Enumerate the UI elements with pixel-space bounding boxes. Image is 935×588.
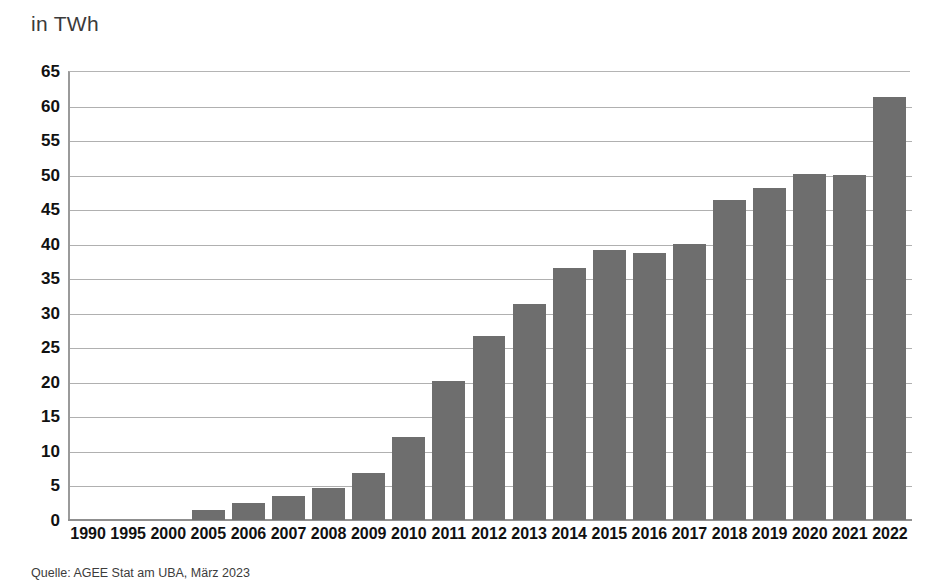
- bar-slot: [830, 71, 870, 520]
- x-axis-tick-label: 2020: [790, 526, 830, 542]
- bar-slot: [349, 71, 389, 520]
- bar[interactable]: [793, 174, 826, 520]
- x-axis-tick-label: 2015: [589, 526, 629, 542]
- y-axis-tick-label: 45: [4, 201, 60, 218]
- bar[interactable]: [833, 175, 866, 520]
- x-axis-tick-label: 2021: [830, 526, 870, 542]
- bar-slot: [710, 71, 750, 520]
- x-axis-tick-label: 2000: [148, 526, 188, 542]
- x-axis-tick-label: 2006: [228, 526, 268, 542]
- y-axis-tick-label: 35: [4, 270, 60, 287]
- source-note: Quelle: AGEE Stat am UBA, März 2023: [31, 566, 250, 580]
- bar[interactable]: [352, 473, 385, 520]
- y-axis-tick-label: 20: [4, 374, 60, 391]
- bar-slot: [750, 71, 790, 520]
- x-axis-tick-label: 2014: [549, 526, 589, 542]
- x-axis-tick-label: 2011: [429, 526, 469, 542]
- bar-slot: [148, 71, 188, 520]
- x-axis-tick-label: 2018: [710, 526, 750, 542]
- bar-slot: [669, 71, 709, 520]
- x-axis-tick-labels: 1990199520002005200620072008200920102011…: [68, 526, 910, 554]
- y-axis-tick-label: 15: [4, 408, 60, 425]
- bar-slot: [188, 71, 228, 520]
- bar[interactable]: [513, 304, 546, 520]
- bar[interactable]: [553, 268, 586, 520]
- x-axis-tick-label: 2013: [509, 526, 549, 542]
- y-axis-tick-label: 60: [4, 98, 60, 115]
- y-axis-tick-label: 25: [4, 339, 60, 356]
- y-axis-tick-label: 65: [4, 63, 60, 80]
- bar[interactable]: [392, 437, 425, 520]
- x-axis-tick-label: 2019: [750, 526, 790, 542]
- x-axis-tick-label: 2007: [268, 526, 308, 542]
- bar[interactable]: [753, 188, 786, 520]
- x-axis-tick-label: 2010: [389, 526, 429, 542]
- bar-slot: [589, 71, 629, 520]
- bar-slot: [549, 71, 589, 520]
- x-axis-tick-label: 2012: [469, 526, 509, 542]
- x-axis-tick-label: 2005: [188, 526, 228, 542]
- bar[interactable]: [593, 250, 626, 520]
- x-axis-tick-label: 2009: [349, 526, 389, 542]
- bar-slot: [108, 71, 148, 520]
- bar[interactable]: [633, 253, 666, 520]
- y-axis-tick-labels: 05101520253035404550556065: [0, 0, 60, 588]
- bar-slot: [309, 71, 349, 520]
- bar[interactable]: [873, 97, 906, 520]
- y-axis-tick-label: 40: [4, 236, 60, 253]
- bar-slot: [790, 71, 830, 520]
- bar-slot: [469, 71, 509, 520]
- bar[interactable]: [473, 336, 506, 520]
- x-axis-tick-label: 1990: [68, 526, 108, 542]
- x-axis-tick-label: 2016: [629, 526, 669, 542]
- bar[interactable]: [432, 381, 465, 520]
- bar-slot: [268, 71, 308, 520]
- y-axis-tick-label: 50: [4, 167, 60, 184]
- chart-figure: in TWh 05101520253035404550556065 199019…: [0, 0, 935, 588]
- x-axis-tick-label: 2022: [870, 526, 910, 542]
- bar[interactable]: [312, 488, 345, 520]
- bar[interactable]: [673, 244, 706, 520]
- bar[interactable]: [272, 496, 305, 520]
- bar[interactable]: [713, 200, 746, 520]
- bar-slot: [228, 71, 268, 520]
- bar-slot: [68, 71, 108, 520]
- x-axis-tick-label: 2008: [309, 526, 349, 542]
- y-axis-tick-label: 30: [4, 305, 60, 322]
- y-axis-tick-label: 5: [4, 477, 60, 494]
- bar-slot: [509, 71, 549, 520]
- bar[interactable]: [192, 510, 225, 520]
- bar-slot: [870, 71, 910, 520]
- y-axis-tick-label: 0: [4, 512, 60, 529]
- x-axis-tick-label: 2017: [669, 526, 709, 542]
- bar-slot: [429, 71, 469, 520]
- y-axis-tick-label: 10: [4, 443, 60, 460]
- bar-slot: [629, 71, 669, 520]
- bar-slot: [389, 71, 429, 520]
- bar[interactable]: [232, 503, 265, 520]
- y-axis-tick-label: 55: [4, 132, 60, 149]
- x-axis-tick-label: 1995: [108, 526, 148, 542]
- bar-series: [68, 71, 910, 520]
